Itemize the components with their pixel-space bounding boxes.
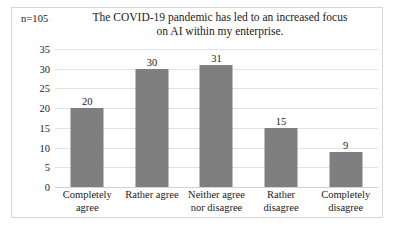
axis-baseline (55, 187, 378, 188)
y-axis-tick-label: 35 (40, 44, 51, 55)
y-axis-tick-label: 0 (45, 182, 50, 193)
x-axis-tick-line: Completely (314, 189, 377, 202)
chart-title-line-2: on AI within my enterprise. (70, 25, 370, 39)
y-axis-tick-label: 20 (40, 103, 51, 114)
x-axis-tick-line: nor disagree (185, 202, 248, 215)
bar[interactable] (200, 65, 233, 187)
bar-slot: 20 (55, 49, 120, 187)
bar-value-label: 31 (211, 53, 222, 64)
chart-title-line-1: The COVID-19 pandemic has led to an incr… (70, 11, 370, 25)
x-axis-tick-line: Rather disagree (250, 189, 313, 214)
x-axis: CompletelyagreeRather agreeNeither agree… (55, 189, 378, 219)
bar-value-label: 15 (276, 116, 287, 127)
x-axis-tick-line: Rather agree (121, 189, 184, 202)
bar-value-label: 30 (147, 57, 158, 68)
grid-and-bars: 203031159 (55, 49, 378, 187)
bar[interactable] (71, 108, 104, 187)
bar-slot: 9 (313, 49, 378, 187)
y-axis-tick-label: 30 (40, 63, 51, 74)
y-axis-tick-label: 10 (40, 142, 51, 153)
y-axis-tick-label: 15 (40, 122, 51, 133)
plot-area: 05101520253035 203031159 (34, 49, 378, 187)
y-axis-tick-label: 5 (45, 162, 50, 173)
bars-layer: 203031159 (55, 49, 378, 187)
y-axis: 05101520253035 (34, 49, 50, 187)
x-axis-tick-label: Rather agree (120, 189, 185, 202)
y-axis-tick-label: 25 (40, 83, 51, 94)
chart-title: The COVID-19 pandemic has led to an incr… (70, 11, 370, 38)
x-axis-tick-label: Rather disagree (249, 189, 314, 214)
sample-size-annotation: n=105 (21, 13, 48, 24)
bar-slot: 30 (120, 49, 185, 187)
bar-value-label: 9 (343, 140, 348, 151)
bar[interactable] (135, 69, 168, 187)
x-axis-tick-line: Completely (56, 189, 119, 202)
bar[interactable] (265, 128, 298, 187)
bar-slot: 15 (249, 49, 314, 187)
x-axis-tick-label: Completelyagree (55, 189, 120, 214)
x-axis-tick-line: agree (56, 202, 119, 215)
bar[interactable] (329, 152, 362, 187)
bar-value-label: 20 (82, 96, 93, 107)
x-axis-tick-label: Neither agreenor disagree (184, 189, 249, 214)
bar-slot: 31 (184, 49, 249, 187)
chart-figure: n=105 The COVID-19 pandemic has led to a… (11, 7, 383, 218)
chart-header: n=105 The COVID-19 pandemic has led to a… (12, 8, 384, 48)
x-axis-tick-line: disagree (314, 202, 377, 215)
x-axis-tick-line: Neither agree (185, 189, 248, 202)
x-axis-tick-label: Completelydisagree (313, 189, 378, 214)
